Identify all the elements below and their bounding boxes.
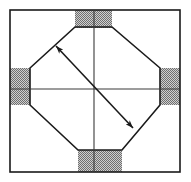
shaded-rect-right (160, 68, 180, 105)
shaded-rect-bottom (78, 150, 122, 172)
shaded-rect-left (10, 68, 30, 105)
geometric-figure (0, 0, 191, 182)
figure-container (0, 0, 191, 182)
